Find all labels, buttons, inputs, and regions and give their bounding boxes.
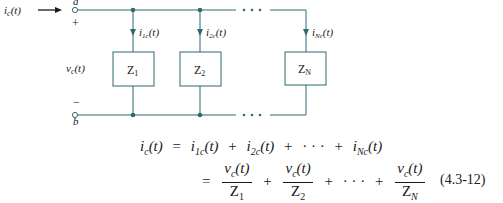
branch-2-current-label: i2c(t)	[206, 26, 226, 40]
fraction-2: vc(t) Z2	[283, 160, 312, 203]
current-arrow-icon	[55, 7, 62, 13]
branch-n-current-label: iNc(t)	[312, 26, 334, 40]
branch-2: i2c(t) Z2	[180, 8, 226, 118]
branch-1-current-arrow-icon	[130, 29, 136, 36]
branch-n-current-arrow-icon	[303, 29, 309, 36]
equation-line-1: ic(t) = i1c(t) + i2c(t) + · · · + iNc(t)	[140, 138, 382, 157]
branch-1-current-label: i1c(t)	[139, 26, 159, 40]
input-current-label: ic(t)	[4, 4, 21, 18]
branch-1: i1c(t) Z1	[113, 8, 159, 118]
branch-n: iNc(t) ZN	[285, 10, 334, 115]
voltage-label: vc(t)	[66, 62, 85, 76]
equation-number: (4.3-12)	[440, 172, 486, 188]
fraction-1: vc(t) Z1	[222, 160, 251, 203]
fraction-n: vc(t) ZN	[395, 160, 424, 203]
node-b-label: b	[73, 115, 79, 125]
terminal-a	[72, 7, 77, 12]
plus-sign: +	[72, 16, 79, 30]
minus-sign: −	[73, 95, 80, 109]
equation-line-2: = vc(t) Z1 + vc(t) Z2 + · · · + vc(t) ZN	[196, 160, 427, 203]
parallel-impedance-circuit: ic(t) a + vc(t) − b i1c(t) Z1 i2c(t) Z2	[0, 0, 503, 125]
branch-2-current-arrow-icon	[197, 29, 203, 36]
node-a-label: a	[73, 0, 79, 7]
